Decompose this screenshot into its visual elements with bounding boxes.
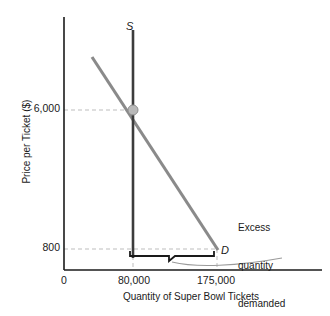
y-tick-label-6000: 6,000 xyxy=(20,103,60,115)
callout-line-3: demanded xyxy=(238,298,291,311)
y-axis-title: Price per Ticket ($) xyxy=(21,67,32,217)
x-tick-label-80000: 80,000 xyxy=(105,275,163,287)
excess-demand-callout: Excess quantity demanded (shortage at $8… xyxy=(238,197,291,316)
shortage-bracket xyxy=(130,251,214,261)
equilibrium-point-marker xyxy=(128,105,138,115)
demand-curve-label: D xyxy=(221,244,229,256)
supply-demand-chart: Price per Ticket ($) Quantity of Super B… xyxy=(0,0,330,316)
y-tick-label-800: 800 xyxy=(20,242,60,254)
x-tick-label-0: 0 xyxy=(49,275,79,287)
demand-curve xyxy=(92,57,218,250)
supply-curve-label: S xyxy=(126,20,133,32)
callout-line-2: quantity xyxy=(238,260,291,273)
callout-line-1: Excess xyxy=(238,222,291,235)
